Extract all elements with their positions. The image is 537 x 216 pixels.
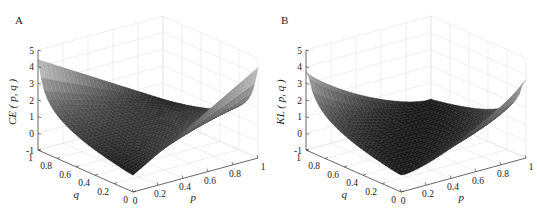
panel-a-ce-surface: A -101234500.20.40.60.8100.20.40.60.81pq… [0, 0, 268, 216]
svg-text:0.2: 0.2 [422, 189, 434, 199]
svg-text:0: 0 [401, 196, 406, 206]
svg-text:0.6: 0.6 [59, 170, 71, 180]
svg-text:2: 2 [297, 96, 302, 106]
svg-text:0.6: 0.6 [204, 176, 216, 186]
svg-text:4: 4 [297, 62, 302, 72]
svg-text:0.8: 0.8 [229, 169, 241, 179]
svg-text:4: 4 [29, 62, 34, 72]
svg-text:2: 2 [29, 96, 34, 106]
svg-text:0: 0 [29, 129, 34, 139]
svg-text:1: 1 [296, 153, 301, 163]
svg-text:0: 0 [133, 196, 138, 206]
svg-text:5: 5 [297, 46, 302, 56]
x-axis-label: p [190, 191, 197, 203]
z-axis-label: CE ( p, q ) [6, 79, 19, 125]
svg-text:0.4: 0.4 [179, 182, 191, 192]
svg-text:0.8: 0.8 [497, 169, 509, 179]
svg-text:1: 1 [297, 112, 302, 122]
svg-text:5: 5 [29, 46, 34, 56]
svg-text:3: 3 [29, 79, 34, 89]
svg-text:0.2: 0.2 [97, 187, 109, 197]
svg-text:1: 1 [29, 112, 34, 122]
svg-text:0.4: 0.4 [78, 178, 90, 188]
svg-text:0.4: 0.4 [346, 178, 358, 188]
y-axis-label: q [342, 188, 348, 200]
svg-text:0: 0 [391, 195, 396, 205]
svg-text:0.2: 0.2 [154, 189, 166, 199]
svg-text:0.2: 0.2 [365, 187, 377, 197]
y-axis-label: q [74, 188, 80, 200]
svg-text:1: 1 [529, 162, 534, 172]
svg-text:0.4: 0.4 [447, 182, 459, 192]
svg-text:0: 0 [123, 195, 128, 205]
svg-text:0.8: 0.8 [40, 161, 52, 171]
svg-text:1: 1 [28, 153, 33, 163]
surface-plot: -101234500.20.40.60.8100.20.40.60.81pqKL… [268, 0, 536, 216]
svg-text:0: 0 [297, 129, 302, 139]
svg-text:3: 3 [297, 79, 302, 89]
svg-text:0.6: 0.6 [327, 170, 339, 180]
svg-text:1: 1 [261, 162, 266, 172]
svg-text:0.6: 0.6 [472, 176, 484, 186]
panel-b-kl-surface: B -101234500.20.40.60.8100.20.40.60.81pq… [268, 0, 536, 216]
z-axis-label: KL ( p, q ) [274, 79, 287, 126]
x-axis-label: p [458, 191, 465, 203]
svg-text:0.8: 0.8 [308, 161, 320, 171]
surface-plot: -101234500.20.40.60.8100.20.40.60.81pqCE… [0, 0, 268, 216]
